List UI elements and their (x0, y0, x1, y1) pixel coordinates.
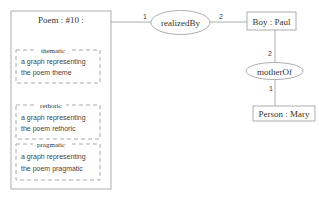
section-rethoric-title: rethoric (40, 102, 62, 110)
arc-label-realizedby-in: 1 (143, 13, 147, 20)
section-pragmatic-line2: the poem pragmatic (21, 165, 83, 173)
concept-poem[interactable]: Poem : #10 : thematic a graph representi… (11, 11, 111, 189)
relation-realizedby-label: realizedBy (161, 18, 200, 28)
relation-motherof[interactable]: motherOf (246, 63, 303, 80)
section-rethoric-line1: a graph representing (21, 114, 86, 122)
concept-boy-paul-label: Boy : Paul (252, 17, 291, 27)
arc-label-motherof-out: 1 (269, 85, 273, 92)
concept-poem-box (11, 11, 111, 189)
concept-person-mary[interactable]: Person : Mary (253, 106, 315, 121)
conceptual-graph-diagram: Poem : #10 : thematic a graph representi… (0, 0, 319, 198)
section-thematic-line2: the poem theme (21, 69, 72, 77)
concept-boy-paul[interactable]: Boy : Paul (247, 12, 296, 30)
arc-label-motherof-in: 2 (268, 50, 272, 57)
arc-label-realizedby-out: 2 (219, 13, 223, 20)
section-thematic-title: thematic (41, 47, 65, 55)
section-pragmatic-title: pragmatic (37, 141, 65, 149)
section-pragmatic-line1: a graph representing (21, 153, 86, 161)
section-thematic-line1: a graph representing (21, 58, 86, 66)
relation-realizedby[interactable]: realizedBy (151, 11, 210, 35)
concept-person-mary-label: Person : Mary (259, 109, 310, 119)
concept-poem-title: Poem : #10 : (38, 15, 84, 25)
section-rethoric-line2: the poem rethoric (21, 125, 76, 133)
relation-motherof-label: motherOf (257, 67, 292, 77)
